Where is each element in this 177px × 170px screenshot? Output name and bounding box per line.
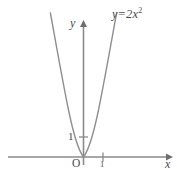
x-axis-tick-label-one: 1: [100, 160, 104, 169]
plot-canvas: [0, 0, 177, 170]
equation-operator: =: [118, 7, 126, 21]
y-axis-label: y: [70, 17, 75, 29]
y-axis-tick-label-one: 1: [68, 131, 74, 142]
origin-label: O: [72, 158, 80, 170]
parabola-figure: y=2x2 y x O 1 1: [0, 0, 177, 170]
y-axis-arrowhead: [80, 20, 87, 27]
equation-exponent: 2: [138, 6, 142, 15]
curve-equation-label: y=2x2: [112, 8, 142, 21]
x-axis-label: x: [165, 158, 170, 170]
equation-lhs: y: [112, 7, 118, 21]
